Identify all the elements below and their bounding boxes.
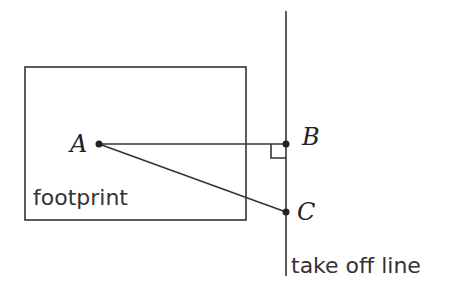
take-off-line-label: take off line (291, 253, 421, 278)
point-c-label: C (297, 198, 315, 226)
point-a-label: A (68, 130, 87, 158)
point-c (283, 209, 290, 216)
point-b (283, 141, 290, 148)
diagram-canvas: footprint take off line A B C (0, 0, 472, 299)
point-b-label: B (301, 123, 320, 151)
footprint-label: footprint (33, 185, 128, 210)
point-a (96, 141, 103, 148)
